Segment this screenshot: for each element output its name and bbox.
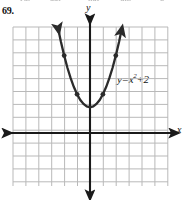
data-point (113, 53, 118, 58)
data-point (62, 53, 67, 58)
data-point (101, 92, 106, 97)
data-point (75, 92, 80, 97)
graph-canvas (0, 0, 183, 200)
figure-panel: ru. aat hat un. b 69. y x y=x2+2 (0, 0, 183, 200)
